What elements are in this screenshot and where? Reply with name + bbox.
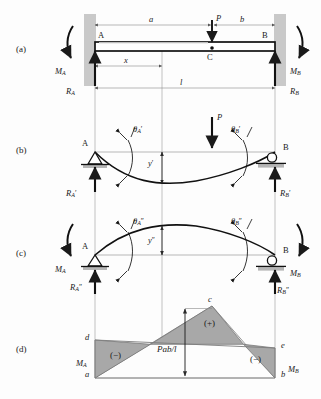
pin-support-a-c [81,255,109,270]
moment-arrow-a [67,26,73,58]
label-positive-sign: (+) [204,318,215,328]
label-theta-a-b: θA′ [133,118,143,136]
label-reaction-a-a: RA [66,80,75,98]
roller-support-b-c [256,256,286,271]
slope-arc-b-c [235,225,248,278]
panel-tag-a: (a) [16,44,26,54]
label-node-b: b [281,369,285,379]
panel-c-group [67,219,302,294]
label-theta-b-b: θB′ [231,118,241,136]
panel-tag-c: (c) [16,248,26,258]
panel-tag-b: (b) [16,145,27,155]
panel-tag-d: (d) [16,344,27,354]
label-theta-b-c: θB″ [231,210,242,228]
engineering-diagram [0,0,321,399]
point-c-marker [210,46,214,50]
label-reaction-b-a: RB [290,80,299,98]
deflected-curve-b [95,152,275,183]
label-node-e: e [281,340,285,350]
panel-b-group [81,117,286,192]
theta-b-leader-c [247,219,252,229]
label-a-point-c: C [207,52,213,62]
label-c-point-b: B [283,245,289,255]
label-node-c: c [208,294,212,304]
label-moment-a-d: MA [76,352,87,370]
moment-arrow-a-c [67,224,73,256]
label-negative-sign-right: (−) [250,354,261,364]
label-reaction-a-b: RA′ [66,182,77,200]
label-a-point-a: A [98,30,104,40]
label-node-a: a [85,369,89,379]
label-moment-a-a: MA [55,60,66,78]
label-moment-b-a: MB [290,60,301,78]
label-b-point-a: A [82,138,88,148]
label-reaction-b-b: RB′ [280,182,291,200]
label-node-d: d [85,332,89,342]
beam-element-a [95,42,275,51]
label-pab-over-l: Pab/l [157,344,177,354]
panel-d-group [95,306,275,378]
label-reaction-b-c: RB″ [277,279,289,297]
label-a-point-b: B [262,30,268,40]
load-label-p-b: P [217,112,222,122]
label-theta-a-c: θA″ [133,210,144,228]
dim-label-b: b [240,14,244,24]
label-negative-sign-left: (−) [110,350,121,360]
theta-b-leader-b [247,127,252,137]
label-moment-a-c: MA [55,258,66,276]
label-c-point-a: A [82,241,88,251]
label-moment-b-c: MB [290,262,301,280]
label-deflection-b: y′ [148,152,153,170]
positive-shaded-region [151,306,244,344]
moment-arrow-b-c [297,224,303,256]
negative-shaded-region-left [95,340,151,378]
figure-canvas: (a) (b) (c) (d) A B C a b P x l MA MB RA… [0,0,321,399]
load-label-p-a: P [216,13,221,23]
dim-label-x: x [124,55,128,65]
panel-a-group [67,14,302,88]
label-b-point-b: B [283,142,289,152]
dim-label-l: l [180,77,182,87]
label-deflection-c: y″ [148,229,155,247]
slope-arc-b-b [235,133,248,183]
label-reaction-a-c: RA″ [70,276,82,294]
dim-label-a: a [149,14,153,24]
label-moment-b-d: MB [288,358,299,376]
moment-arrow-b [297,26,303,58]
